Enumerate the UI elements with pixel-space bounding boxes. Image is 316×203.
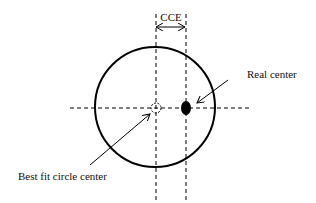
real-center-label: Real center [247,68,297,80]
measured-circle [95,47,215,167]
real-center-leader-arrow [197,80,228,103]
best-fit-leader-arrow [90,114,150,165]
best-fit-center-label: Best fit circle center [18,170,107,182]
real-center-marker [181,101,191,115]
cce-label: CCE [160,11,182,23]
cce-diagram: CCE Real center Best fit circle center [0,0,316,203]
